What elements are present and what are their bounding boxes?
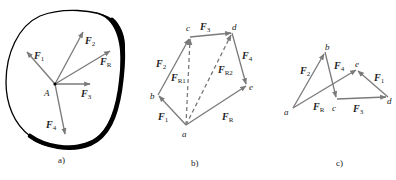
label-b-F3: F3 — [199, 21, 211, 34]
rigid-body-shadow — [30, 12, 125, 148]
point-label-A: A — [43, 88, 50, 98]
label-b-FR1: FR1 — [170, 72, 186, 85]
label-a-F4: F4 — [45, 119, 57, 132]
vertex-b-d: d — [232, 22, 237, 32]
label-c-FR: FR — [312, 101, 325, 114]
vertex-b-c: c — [186, 23, 190, 33]
label-a-FR: FR — [99, 56, 112, 69]
caption-c: c) — [336, 158, 343, 168]
arrow-b-FR1 — [186, 39, 190, 125]
arrow-c-F3 — [337, 97, 386, 99]
caption-b: b) — [191, 158, 199, 168]
vertex-c-a: a — [284, 107, 289, 117]
vertex-c-e: e — [355, 59, 359, 69]
vertex-c-d: d — [387, 96, 392, 106]
label-b-F2: F2 — [155, 58, 167, 71]
label-c-F4: F4 — [333, 60, 345, 73]
arrow-b-F3 — [190, 33, 231, 37]
arrow-b-FR — [186, 86, 246, 125]
caption-a: a) — [58, 155, 65, 165]
label-b-F4: F4 — [241, 50, 253, 63]
arrow-c-F4 — [325, 52, 336, 97]
label-b-FR2: FR2 — [217, 64, 233, 77]
arrow-c-F2 — [293, 54, 324, 108]
panel-a: A F1 F2 FR F3 F4 a) — [6, 10, 125, 165]
vertex-b-e: e — [249, 82, 253, 92]
panel-c: a b c d e F2 F4 F3 F1 FR c) — [284, 42, 392, 168]
label-b-F1: F1 — [157, 111, 169, 124]
point-A-dot — [53, 82, 56, 85]
panel-b: a b c d e F1 F2 F3 F4 FR FR1 FR2 b) — [150, 21, 253, 168]
label-c-F1: F1 — [373, 72, 385, 85]
label-b-FR: FR — [221, 111, 234, 124]
label-a-F2: F2 — [84, 35, 96, 48]
label-c-F3: F3 — [352, 103, 364, 116]
vertex-c-c: c — [332, 103, 336, 113]
force-arrows-a — [27, 32, 110, 134]
label-c-F2: F2 — [299, 65, 311, 78]
force-polygon-diagram: A F1 F2 FR F3 F4 a) a b c d e F1 F2 F3 F… — [0, 0, 396, 180]
vertex-b-b: b — [150, 91, 155, 101]
vertex-c-b: b — [325, 42, 330, 52]
label-a-F3: F3 — [80, 88, 92, 101]
arrow-F4 — [55, 84, 65, 134]
vertex-b-a: a — [182, 129, 187, 139]
